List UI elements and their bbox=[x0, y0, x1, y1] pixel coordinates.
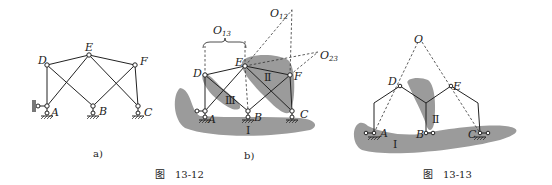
joint-label-e: E bbox=[452, 80, 461, 93]
joint-label-d: D bbox=[37, 54, 47, 67]
wall-hatch-icon bbox=[32, 100, 36, 112]
joint-label-e: E bbox=[84, 41, 93, 54]
supports bbox=[32, 100, 144, 119]
figure-caption-13-13: 图 13-13 bbox=[423, 169, 472, 180]
figure-13-12a: D E F A B C a) bbox=[32, 41, 153, 159]
joint-label-b: B bbox=[253, 111, 262, 124]
truss-bars bbox=[47, 55, 138, 106]
joint-label-a: A bbox=[207, 113, 216, 126]
instant-center-o13: O13 bbox=[213, 24, 231, 38]
joint-label-f: F bbox=[139, 55, 148, 68]
joint-pins bbox=[45, 53, 140, 108]
rigid-body-ii bbox=[242, 55, 294, 113]
figure-13-12b: D E F A B C O13 O12 O23 Ⅲ Ⅱ Ⅰ b) 图 13-12 bbox=[155, 7, 338, 180]
joint-label-f: F bbox=[293, 70, 302, 83]
instant-center-o12: O12 bbox=[270, 7, 288, 21]
joint-label-b: B bbox=[415, 128, 424, 141]
diagram-canvas: D E F A B C a) bbox=[0, 0, 552, 185]
joint-label-a: A bbox=[379, 127, 388, 140]
body-label-i: Ⅰ bbox=[393, 138, 397, 151]
joint-label-d: D bbox=[387, 75, 397, 88]
body-label-i: Ⅰ bbox=[246, 124, 250, 137]
rigid-body-i bbox=[354, 123, 517, 154]
joint-label-b: B bbox=[98, 105, 107, 118]
body-label-iii: Ⅲ bbox=[225, 94, 236, 107]
body-label-ii: Ⅱ bbox=[264, 71, 271, 84]
joint-label-c: C bbox=[300, 108, 309, 121]
figure-caption-13-12: 图 13-12 bbox=[155, 169, 204, 180]
rigid-body-ii bbox=[407, 78, 435, 130]
joint-label-a: A bbox=[50, 106, 59, 119]
figure-13-13: O D E A B C Ⅱ Ⅰ 图 13-13 bbox=[354, 33, 517, 180]
joint-label-e: E bbox=[234, 56, 243, 69]
subfigure-label-a: a) bbox=[93, 148, 103, 159]
joint-label-d: D bbox=[192, 67, 202, 80]
instant-center-o23: O23 bbox=[320, 49, 338, 63]
body-label-ii: Ⅱ bbox=[432, 113, 439, 126]
joint-label-c: C bbox=[144, 106, 153, 119]
joint-label-c: C bbox=[468, 128, 477, 141]
subfigure-label-b: b) bbox=[244, 150, 254, 161]
brace-o13 bbox=[203, 38, 246, 48]
instant-center-o: O bbox=[414, 33, 423, 46]
